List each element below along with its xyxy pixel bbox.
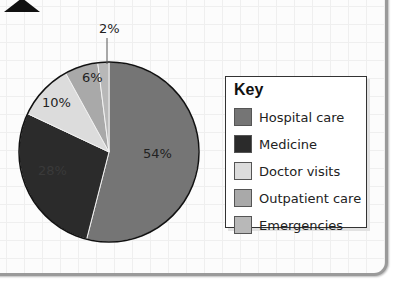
legend-item-hospital-care: Hospital care — [234, 106, 344, 128]
legend-item-doctor-visits: Doctor visits — [234, 160, 340, 182]
slice-label-emergencies: 2% — [99, 21, 120, 36]
legend-swatch — [234, 216, 252, 234]
legend-item-medicine: Medicine — [234, 133, 317, 155]
legend-label: Hospital care — [259, 110, 344, 125]
slice-label-medicine: 28% — [38, 163, 67, 178]
legend-item-emergencies: Emergencies — [234, 214, 343, 236]
legend-label: Medicine — [259, 137, 317, 152]
legend: Key Hospital care Medicine Doctor visits… — [225, 76, 367, 228]
legend-swatch — [234, 162, 252, 180]
legend-swatch — [234, 189, 252, 207]
slice-label-outpatient: 6% — [82, 70, 103, 85]
legend-item-outpatient-care: Outpatient care — [234, 187, 361, 209]
legend-label: Emergencies — [259, 218, 343, 233]
slice-label-hospital: 54% — [143, 146, 172, 161]
legend-title: Key — [234, 81, 263, 99]
legend-label: Doctor visits — [259, 164, 340, 179]
legend-label: Outpatient care — [259, 191, 361, 206]
slice-label-doctor-visits: 10% — [42, 95, 71, 110]
legend-swatch — [234, 135, 252, 153]
legend-swatch — [234, 108, 252, 126]
